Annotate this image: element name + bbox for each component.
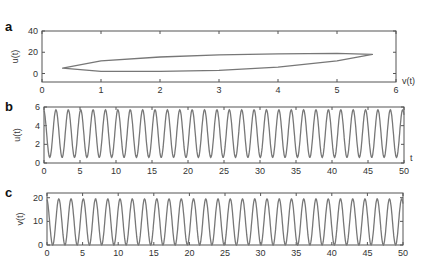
x-tick-label: 50 (399, 166, 409, 176)
panel-b: b051015202530354045500246u(t)t (5, 99, 413, 176)
x-tick-label: 1 (98, 85, 103, 95)
y-axis-label: u(t) (10, 50, 20, 64)
panel-a: a012345602040u(t)v(t) (5, 19, 415, 95)
y-tick-label: 20 (33, 193, 43, 203)
x-tick-label: 0 (44, 248, 49, 258)
x-axis-label: t (410, 153, 413, 163)
y-tick-label: 4 (35, 121, 40, 131)
x-tick-label: 40 (327, 166, 337, 176)
figure: a012345602040u(t)v(t)b051015202530354045… (0, 0, 426, 268)
x-tick-label: 5 (334, 85, 339, 95)
y-tick-label: 2 (35, 139, 40, 149)
x-tick-label: 10 (113, 248, 123, 258)
x-tick-label: 20 (183, 166, 193, 176)
time-series-vt (47, 199, 403, 245)
x-tick-label: 35 (291, 248, 301, 258)
x-tick-label: 40 (327, 248, 337, 258)
y-axis-label: u(t) (12, 128, 22, 142)
x-tick-label: 0 (39, 85, 44, 95)
x-tick-label: 3 (216, 85, 221, 95)
x-tick-label: 5 (80, 248, 85, 258)
x-axis-label: v(t) (402, 76, 415, 86)
y-tick-label: 0 (38, 240, 43, 250)
y-tick-label: 0 (35, 158, 40, 168)
time-series-ut (44, 110, 404, 158)
x-tick-label: 30 (255, 166, 265, 176)
plot-frame (42, 31, 396, 82)
x-tick-label: 10 (111, 166, 121, 176)
y-tick-label: 6 (35, 102, 40, 112)
x-tick-label: 25 (219, 166, 229, 176)
x-tick-label: 45 (362, 248, 372, 258)
x-tick-label: 45 (363, 166, 373, 176)
limit-cycle-curve (63, 53, 373, 71)
x-tick-label: 15 (149, 248, 159, 258)
y-tick-label: 20 (28, 47, 38, 57)
x-tick-label: 20 (184, 248, 194, 258)
x-tick-label: 2 (157, 85, 162, 95)
x-tick-label: 5 (77, 166, 82, 176)
x-tick-label: 15 (147, 166, 157, 176)
x-tick-label: 6 (393, 85, 398, 95)
x-tick-label: 0 (41, 166, 46, 176)
x-tick-label: 30 (256, 248, 266, 258)
x-tick-label: 25 (220, 248, 230, 258)
x-tick-label: 50 (398, 248, 408, 258)
panel-label: b (5, 99, 13, 114)
x-tick-label: 4 (275, 85, 280, 95)
y-axis-label: v(t) (15, 213, 25, 226)
panel-c: c0510152025303540455001020v(t) (5, 185, 408, 258)
panel-label: c (5, 185, 12, 200)
panel-label: a (5, 19, 13, 34)
y-tick-label: 40 (28, 26, 38, 36)
y-tick-label: 10 (33, 216, 43, 226)
y-tick-label: 0 (33, 69, 38, 79)
x-tick-label: 35 (291, 166, 301, 176)
